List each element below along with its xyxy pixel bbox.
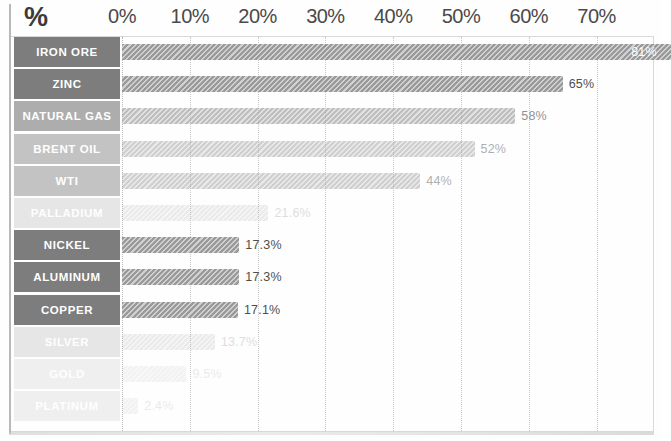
bar-row: WTI44% [0,166,662,196]
category-cell: ZINC [14,69,120,99]
bar [122,237,239,253]
x-axis-tick-label: 70% [577,5,616,28]
category-label: NATURAL GAS [22,110,111,122]
bar [122,366,186,382]
category-label: PLATINUM [35,400,98,412]
bar [122,44,671,60]
bar-row: ALUMINUM17.3% [0,262,662,292]
category-label: ALUMINUM [33,271,100,283]
x-axis-tick-label: 20% [238,5,277,28]
category-label: PALLADIUM [31,207,103,219]
bar [122,398,138,414]
category-cell: BRENT OIL [14,134,120,164]
bar-row: NATURAL GAS58% [0,101,662,131]
category-cell: PALLADIUM [14,198,120,228]
bar-rows-group: IRON ORE81%ZINC65%NATURAL GAS58%BRENT OI… [0,37,662,431]
bar [122,205,268,221]
category-label: SILVER [45,336,89,348]
category-label: NICKEL [44,239,90,251]
chart-title: % [24,2,47,33]
bar [122,76,563,92]
bar [122,173,420,189]
x-axis-tick-label: 40% [374,5,413,28]
bar-value-label: 13.7% [221,334,257,350]
bar-row: BRENT OIL52% [0,134,662,164]
bar-row: SILVER13.7% [0,327,662,357]
bar-value-label: 65% [569,76,595,92]
x-axis-tick-label: 10% [171,5,210,28]
bar-row: IRON ORE81% [0,37,662,67]
bar-row: NICKEL17.3% [0,230,662,260]
category-cell: PLATINUM [14,391,120,421]
bar-row: PALLADIUM21.6% [0,198,662,228]
bar-row: COPPER17.1% [0,295,662,325]
category-label: WTI [56,175,79,187]
bar-value-label: 9.5% [192,366,221,382]
category-cell: SILVER [14,327,120,357]
bar-row: ZINC65% [0,69,662,99]
bar-row: PLATINUM2.4% [0,391,662,421]
category-cell: NATURAL GAS [14,101,120,131]
scan-artifact [9,432,654,435]
bar-value-label: 44% [426,173,452,189]
x-axis-header: % 0%10%20%30%40%50%60%70% [0,0,662,36]
x-axis-tick-label: 60% [510,5,549,28]
bar-value-label: 58% [521,108,547,124]
x-axis-tick-label: 50% [442,5,481,28]
bar [122,334,215,350]
category-label: ZINC [52,78,81,90]
category-cell: IRON ORE [14,37,120,67]
x-axis-tick-label: 30% [306,5,345,28]
x-axis-tick-label: 0% [108,5,136,28]
bar-value-label: 17.1% [244,302,280,318]
category-cell: COPPER [14,295,120,325]
category-label: COPPER [41,304,93,316]
category-label: IRON ORE [36,46,98,58]
category-cell: ALUMINUM [14,262,120,292]
bar [122,108,515,124]
bar [122,141,475,157]
bar-value-label: 2.4% [144,398,173,414]
bar-value-label: 17.3% [245,237,281,253]
category-label: BRENT OIL [33,143,100,155]
bar [122,302,238,318]
bar-value-label: 21.6% [274,205,310,221]
category-cell: GOLD [14,359,120,389]
category-cell: NICKEL [14,230,120,260]
bar-value-label: 52% [481,141,507,157]
category-label: GOLD [49,368,85,380]
bar-value-label: 17.3% [245,269,281,285]
bar-row: GOLD9.5% [0,359,662,389]
bar-value-label: 81% [631,44,657,60]
bar [122,269,239,285]
category-cell: WTI [14,166,120,196]
